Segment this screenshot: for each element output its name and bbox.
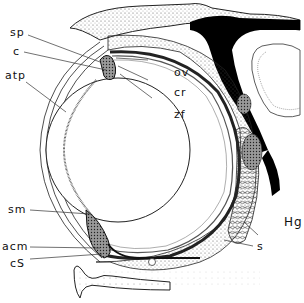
label-Hg: Hg — [284, 215, 303, 229]
label-sp: sp — [10, 26, 25, 39]
label-ov: ov — [174, 66, 189, 79]
label-sm: sm — [8, 203, 26, 216]
label-c: c — [13, 45, 20, 58]
ciliary-body-upper — [100, 55, 116, 79]
label-cr: cr — [174, 86, 187, 99]
gland-lobe — [242, 134, 262, 170]
label-acm: acm — [2, 240, 29, 253]
eye-diagram: sp c atp ov cr zf sm acm cS Hg s — [0, 0, 304, 303]
label-s: s — [257, 240, 264, 253]
sinus-outline — [252, 44, 300, 117]
label-zf: zf — [174, 108, 186, 121]
label-atp: atp — [5, 69, 26, 82]
small-globule — [149, 259, 156, 266]
label-cS: cS — [10, 257, 25, 270]
lens — [46, 78, 190, 222]
orbit-bone-lower — [262, 150, 280, 196]
